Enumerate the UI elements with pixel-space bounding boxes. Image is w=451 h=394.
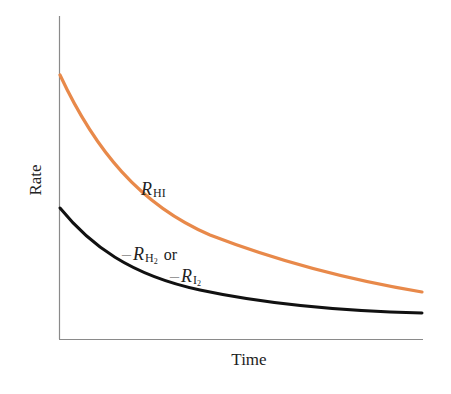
- curve-r-hi: [60, 75, 422, 292]
- label-r-i2: –RI2: [169, 266, 201, 288]
- y-axis-label: Rate: [26, 164, 45, 195]
- label-r-hi: RHI: [140, 179, 166, 200]
- label-r-h2: –RH2or: [121, 244, 178, 266]
- curve-r-h2-i2: [60, 208, 422, 313]
- x-axis-label: Time: [231, 350, 266, 369]
- rate-vs-time-chart: Rate Time RHI –RH2or –RI2: [0, 0, 451, 394]
